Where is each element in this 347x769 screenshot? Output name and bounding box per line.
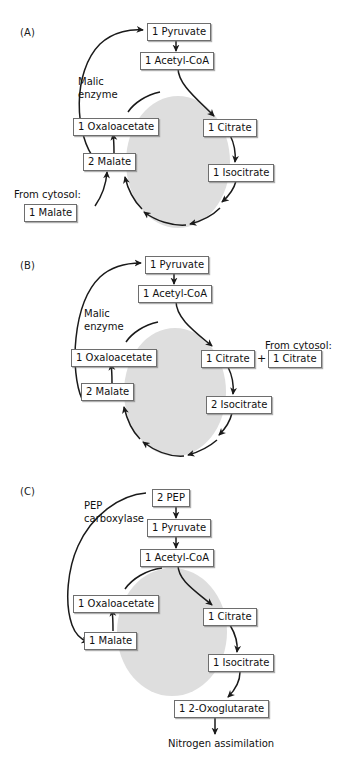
node-cytosol-citrate-b[interactable]: 1 Citrate: [268, 350, 322, 368]
arc-cycle-top-left: [128, 92, 160, 112]
node-acetylcoa-c[interactable]: 1 Acetyl-CoA: [140, 549, 214, 567]
node-citrate-b[interactable]: 1 Citrate: [201, 350, 255, 368]
arrow-citrate-to-isocitrate-c: [230, 625, 237, 652]
arrow-acetylcoa-to-citrate-b: [176, 301, 212, 346]
panel-a: (A) Malic enzyme From cytosol: 1 Pyruvat…: [0, 0, 347, 232]
panel-c: (C) PEP carboxylase 2 PEP 1 Pyruvate 1 A…: [0, 462, 347, 769]
arrow-bottom-right-arc: [190, 208, 220, 224]
node-malate-a[interactable]: 2 Malate: [83, 153, 136, 171]
panel-c-enzyme-label: PEP carboxylase: [84, 500, 144, 525]
node-citrate-a[interactable]: 1 Citrate: [203, 119, 257, 137]
arrow-isocitrate-down: [222, 181, 236, 202]
node-isocitrate-b[interactable]: 2 Isocitrate: [206, 396, 272, 414]
panel-c-graphics: [0, 462, 347, 769]
arc-cycle-top-left-c: [125, 568, 162, 589]
arrow-citrate-to-isocitrate: [230, 135, 235, 162]
panel-c-output-label: Nitrogen assimilation: [168, 738, 274, 751]
arrow-acetylcoa-to-citrate-c: [178, 565, 212, 605]
arrow-bottom-right-arc-b: [188, 440, 217, 455]
node-cytosol-malate-a[interactable]: 1 Malate: [24, 204, 77, 222]
node-citrate-c[interactable]: 1 Citrate: [203, 608, 257, 626]
node-acetylcoa-b[interactable]: 1 Acetyl-CoA: [138, 285, 212, 303]
arrow-bottom-to-malate: [125, 177, 142, 209]
node-oxaloacetate-a[interactable]: 1 Oxaloacetate: [73, 118, 159, 136]
node-isocitrate-a[interactable]: 1 Isocitrate: [208, 164, 274, 182]
node-isocitrate-c[interactable]: 1 Isocitrate: [208, 654, 274, 672]
cycle-blob-a: [126, 96, 230, 228]
panel-b-enzyme-label: Malic enzyme: [84, 308, 124, 333]
panel-c-label: (C): [20, 486, 35, 497]
arrow-acetylcoa-to-citrate: [178, 68, 214, 116]
arrow-malate-to-oxaloacetate: [113, 134, 114, 153]
arrow-bottom-left-arc: [144, 212, 186, 225]
arrow-bottom-left-arc-b: [143, 442, 184, 456]
node-pyruvate-b[interactable]: 1 Pyruvate: [145, 256, 209, 274]
panel-b-plus-sign: +: [257, 352, 266, 365]
arrow-citrate-to-isocitrate-b: [228, 367, 233, 394]
arrow-bottom-to-malate-b: [124, 407, 140, 439]
panel-a-enzyme-label: Malic enzyme: [78, 76, 118, 101]
arc-cycle-top-left-b: [126, 322, 158, 342]
arrow-malate-to-oxaloacetate-c: [112, 610, 113, 631]
arrow-cytosol-malate-to-malate: [95, 172, 107, 206]
node-oxaloacetate-c[interactable]: 1 Oxaloacetate: [73, 595, 159, 613]
panel-a-label: (A): [20, 27, 35, 38]
node-oxoglutarate-c[interactable]: 1 2-Oxoglutarate: [174, 700, 269, 718]
panel-b-label: (B): [20, 260, 35, 271]
node-malate-b[interactable]: 2 Malate: [81, 383, 134, 401]
node-oxaloacetate-b[interactable]: 1 Oxaloacetate: [71, 349, 157, 367]
node-pyruvate-a[interactable]: 1 Pyruvate: [147, 23, 211, 41]
node-acetylcoa-a[interactable]: 1 Acetyl-CoA: [140, 52, 214, 70]
node-pyruvate-c[interactable]: 1 Pyruvate: [147, 519, 211, 537]
node-malate-c[interactable]: 1 Malate: [84, 632, 137, 650]
arrow-isocitrate-down-b: [219, 413, 232, 435]
arrow-isocitrate-to-oxoglutarate: [228, 672, 240, 697]
panel-a-cytosol-label: From cytosol:: [14, 189, 81, 202]
panel-b: (B) Malic enzyme From cytosol: + 1 Pyruv…: [0, 232, 347, 462]
node-pep-c[interactable]: 2 PEP: [152, 489, 190, 507]
cycle-blob-b: [124, 328, 226, 456]
